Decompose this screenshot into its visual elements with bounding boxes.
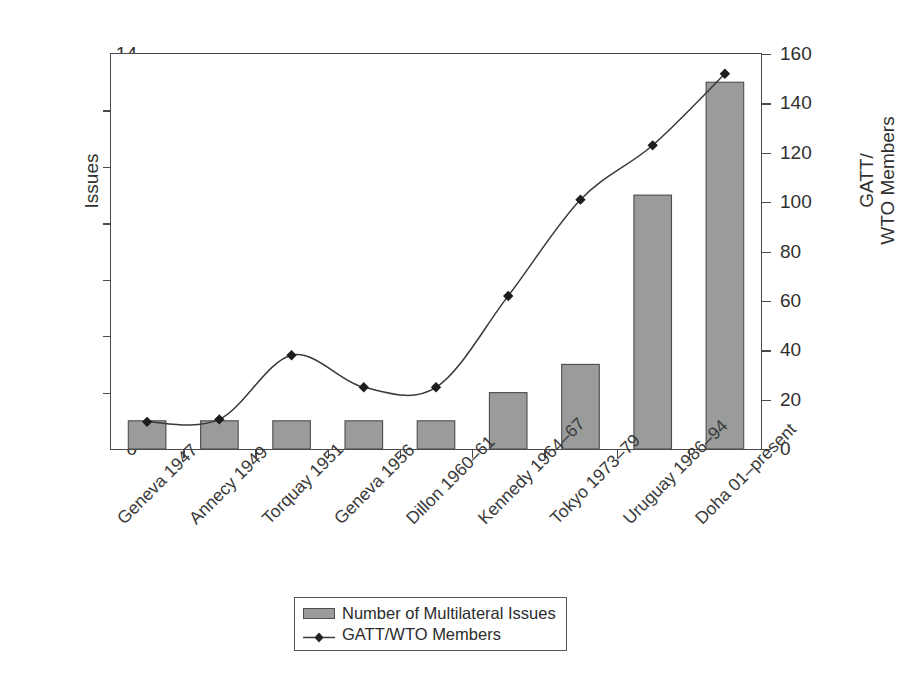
bar-5 [489,393,527,449]
chart-figure: Issues GATT/ WTO Members 024681012140204… [0,0,903,678]
y-tick-right-60: 60 [780,290,840,312]
y-tickmark-right-160 [762,54,771,55]
bar-2 [273,421,311,449]
y-tickmark-right-60 [762,301,771,302]
plot-area [110,53,762,450]
bar-3 [345,421,383,449]
y-tick-right-120: 120 [780,142,840,164]
line-marker-2 [286,350,296,360]
bar-4 [417,421,455,449]
bar-8 [706,82,744,449]
plot-graphics [111,54,761,449]
legend-label-line: GATT/WTO Members [342,625,501,644]
y-tick-right-80: 80 [780,241,840,263]
y-tickmark-right-100 [762,202,771,203]
y-tickmark-right-40 [762,350,771,351]
y-tick-right-160: 160 [780,43,840,65]
y-axis-right-title: GATT/ WTO Members [857,71,898,291]
y-axis-right-title-line1: GATT/ [857,71,878,291]
legend-item-bar: Number of Multilateral Issues [303,603,556,624]
y-tick-right-140: 140 [780,92,840,114]
legend-item-line: GATT/WTO Members [303,624,556,645]
y-tick-right-40: 40 [780,339,840,361]
line-marker-3 [359,382,369,392]
y-tickmark-right-20 [762,400,771,401]
bar-7 [634,195,672,449]
chart-legend: Number of Multilateral Issues GATT/WTO M… [294,597,567,651]
legend-label-bar: Number of Multilateral Issues [342,604,556,623]
y-tickmark-right-140 [762,103,771,104]
y-tickmark-right-80 [762,252,771,253]
bar-1 [201,421,239,449]
line-marker-4 [431,382,441,392]
y-axis-right-title-line2: WTO Members [878,71,899,291]
bar-series [128,82,743,449]
y-tick-right-100: 100 [780,191,840,213]
legend-bar-swatch-icon [303,608,335,619]
y-tick-right-20: 20 [780,389,840,411]
legend-line-diamond-icon [303,629,335,640]
y-tickmark-right-120 [762,153,771,154]
